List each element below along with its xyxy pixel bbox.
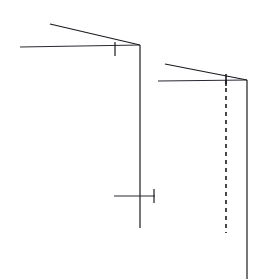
line-drawing-svg [0,0,271,279]
canvas-background [0,0,271,279]
drawing-canvas [0,0,271,279]
